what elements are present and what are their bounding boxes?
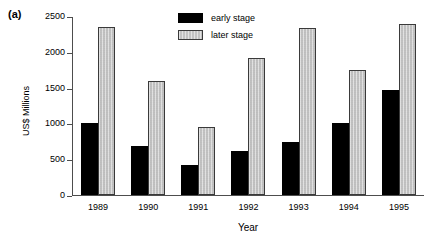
y-axis-tick-label: 2500 [45,11,65,21]
x-axis-tick-label: 1993 [289,202,309,212]
bar-later-stage[interactable] [349,70,366,195]
y-axis-tick-mark [67,53,72,54]
bar-group: 1990 [123,17,173,195]
bar-early-stage[interactable] [231,151,248,195]
x-axis-tick-label: 1991 [188,202,208,212]
y-axis-title: US$ Millions [21,51,31,171]
figure-panel: (a) US$ Millions 05001000150020002500 19… [0,0,432,244]
legend-swatch-icon [178,13,203,23]
panel-label: (a) [8,8,21,20]
x-axis-tick-label: 1992 [238,202,258,212]
bar-later-stage[interactable] [148,81,165,195]
y-axis-tick-mark [67,124,72,125]
legend-swatch-icon [178,30,203,40]
y-axis-tick-mark [67,17,72,18]
bar-later-stage[interactable] [248,58,265,195]
bar-early-stage[interactable] [332,123,349,195]
x-axis-tick-label: 1990 [138,202,158,212]
bar-group: 1989 [73,17,123,195]
legend-label: later stage [211,30,253,40]
bar-group: 1995 [374,17,424,195]
y-axis-tick-mark [67,196,72,197]
bar-early-stage[interactable] [181,165,198,195]
x-axis-tick-label: 1995 [389,202,409,212]
y-axis-tick-label: 1500 [45,83,65,93]
bar-early-stage[interactable] [282,142,299,195]
y-axis-tick-label: 500 [50,154,65,164]
bar-group: 1994 [324,17,374,195]
bar-early-stage[interactable] [382,90,399,195]
legend-label: early stage [211,13,255,23]
legend-item[interactable]: early stage [178,11,255,24]
x-axis-tick-label: 1994 [339,202,359,212]
legend-item[interactable]: later stage [178,28,255,41]
x-axis-line [72,195,424,196]
bar-later-stage[interactable] [399,24,416,195]
bar-later-stage[interactable] [299,28,316,195]
y-axis-tick-mark [67,160,72,161]
bar-early-stage[interactable] [81,123,98,195]
bar-later-stage[interactable] [198,127,215,195]
x-axis-tick-label: 1989 [88,202,108,212]
bar-early-stage[interactable] [131,146,148,195]
legend: early stagelater stage [178,11,255,45]
y-axis-tick-mark [67,89,72,90]
y-axis-tick-label: 0 [60,190,65,200]
bar-group: 1993 [274,17,324,195]
y-axis-tick-label: 1000 [45,118,65,128]
y-axis-tick-label: 2000 [45,47,65,57]
bar-later-stage[interactable] [98,27,115,195]
x-axis-title: Year [72,222,424,233]
